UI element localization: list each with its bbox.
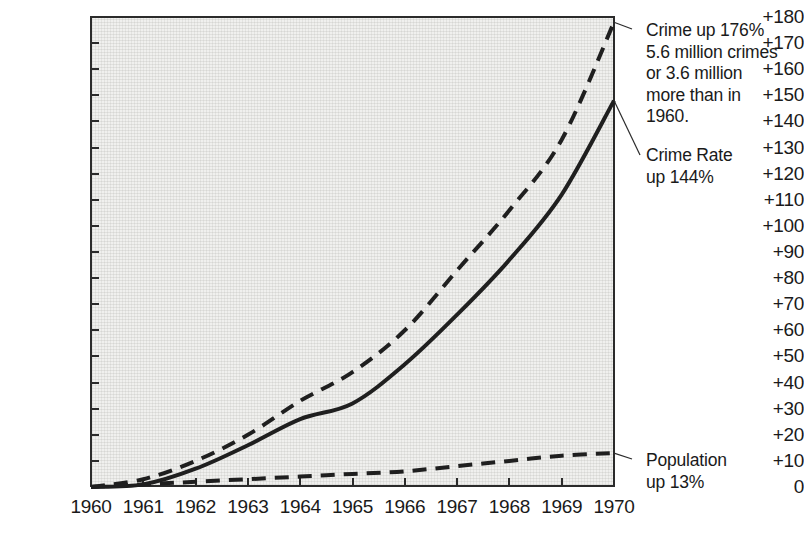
y-tick-mark (90, 42, 99, 44)
y-tick-mark (90, 68, 99, 70)
y-tick-label: +20 (742, 425, 804, 444)
y-tick-label: +110 (742, 190, 804, 209)
y-tick-mark (90, 382, 99, 384)
y-tick-label: +10 (742, 451, 804, 470)
y-tick-label: +30 (742, 399, 804, 418)
y-tick-mark (90, 120, 99, 122)
x-tick-mark (352, 478, 354, 487)
y-tick-mark (90, 460, 99, 462)
y-tick-mark (90, 173, 99, 175)
x-tick-mark (456, 478, 458, 487)
leader-line-population-annotation (614, 453, 632, 459)
plot-paper-texture (92, 18, 613, 485)
y-tick-mark (90, 277, 99, 279)
x-tick-mark (247, 478, 249, 487)
y-tick-label: +130 (742, 138, 804, 157)
y-tick-label: +90 (742, 242, 804, 261)
x-tick-mark (561, 478, 563, 487)
x-tick-mark (299, 478, 301, 487)
crime-rate-annotation: Crime Rate up 144% (646, 145, 733, 188)
y-tick-label: +60 (742, 320, 804, 339)
x-tick-mark (142, 478, 144, 487)
x-tick-label: 1970 (579, 497, 649, 516)
population-annotation: Population up 13% (646, 450, 727, 493)
x-tick-mark (404, 478, 406, 487)
y-tick-label: 0 (742, 477, 804, 496)
leader-line-crime-annotation (614, 22, 632, 29)
y-tick-mark (90, 94, 99, 96)
y-tick-mark (90, 408, 99, 410)
chart-figure: 0+10+20+30+40+50+60+70+80+90+100+110+120… (0, 0, 804, 557)
y-tick-label: +120 (742, 164, 804, 183)
y-tick-label: +50 (742, 346, 804, 365)
y-tick-label: +80 (742, 268, 804, 287)
y-tick-mark (90, 225, 99, 227)
y-tick-mark (90, 199, 99, 201)
y-tick-mark (90, 355, 99, 357)
y-tick-mark (90, 303, 99, 305)
y-tick-label: +70 (742, 294, 804, 313)
y-tick-mark (90, 434, 99, 436)
y-tick-mark (90, 147, 99, 149)
x-tick-mark (508, 478, 510, 487)
leader-line-crime-rate-annotation (614, 101, 640, 155)
crime-annotation: Crime up 176% 5.6 million crimes or 3.6 … (646, 20, 778, 128)
y-tick-label: +100 (742, 216, 804, 235)
x-tick-mark (195, 478, 197, 487)
y-tick-mark (90, 329, 99, 331)
y-tick-label: +40 (742, 373, 804, 392)
y-tick-mark (90, 251, 99, 253)
plot-area (90, 16, 615, 487)
